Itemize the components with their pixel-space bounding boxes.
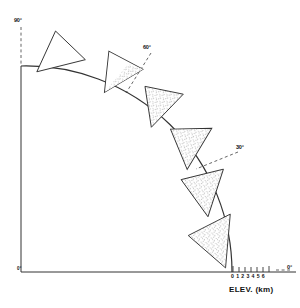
mountain-6 [186, 211, 231, 268]
mountain-3 [128, 71, 184, 127]
elevation-axis-caption: ELEV. (km) [229, 285, 274, 294]
angle-label-90: 90° [14, 17, 22, 23]
angle-label-0: 0° [287, 264, 292, 270]
elevation-scale-bar [233, 266, 269, 272]
mountain-group-open [28, 26, 143, 93]
mountain-4-outline [157, 110, 212, 169]
mountain-1 [28, 26, 85, 72]
scale-tick-labels: 0 1 2 3 4 5 6 [231, 273, 265, 279]
angle-label-30: 30° [236, 144, 244, 150]
origin-corner-label: 0° [17, 266, 21, 271]
mountain-2 [87, 41, 143, 92]
mountain-5 [173, 158, 224, 217]
mountain-group-stippled [128, 71, 231, 268]
figure-canvas: 90° 60° 30° 0° 0° 0 1 2 3 4 5 6 ELEV. (k… [0, 0, 300, 308]
mountain-3-outline [128, 71, 184, 127]
angle-label-60: 60° [143, 44, 151, 50]
mountain-4 [157, 110, 212, 169]
mountain-1-outline [28, 26, 85, 72]
mountain-6-outline [186, 211, 231, 268]
mountain-5-outline [173, 158, 224, 217]
